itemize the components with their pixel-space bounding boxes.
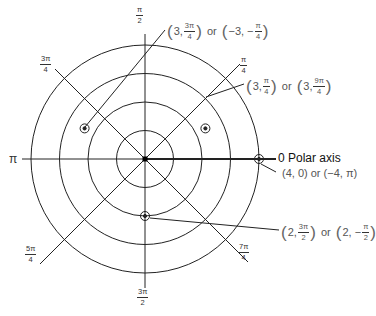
label-7pi-over-4: 7π4 bbox=[238, 243, 249, 261]
point-label-3-3pi-over-4: (3, 3π4 ) or (−3, − π4 ) bbox=[167, 22, 268, 40]
polar-axis-label: 0 Polar axis bbox=[278, 152, 341, 164]
label-pi-over-4: π4 bbox=[240, 56, 247, 74]
label-pi-over-2: π2 bbox=[136, 6, 143, 24]
ray-3pi-over-4 bbox=[55, 69, 145, 159]
plotted-points bbox=[80, 124, 263, 221]
leader-3pi-over-4 bbox=[85, 30, 165, 127]
label-3pi-over-2: 3π2 bbox=[137, 288, 148, 306]
leader-pi-over-4 bbox=[206, 84, 244, 97]
origin-dot bbox=[143, 157, 148, 162]
point-label-4-0: (4, 0) or (−4, π) bbox=[282, 167, 357, 179]
leader-4-0 bbox=[261, 164, 276, 172]
ray-7pi-over-4 bbox=[145, 159, 248, 262]
label-3pi-over-4: 3π4 bbox=[40, 55, 51, 73]
ray-5pi-over-4 bbox=[40, 159, 145, 264]
label-5pi-over-4: 5π4 bbox=[25, 245, 36, 263]
ray-pi-over-4 bbox=[145, 64, 240, 159]
point-label-3-pi-over-4: (3, π4 ) or (3, 9π4 ) bbox=[246, 77, 332, 95]
label-pi: π bbox=[9, 153, 17, 165]
point-label-2-3pi-over-2: (2, 3π2 ) or (2, − π2 ) bbox=[281, 223, 376, 241]
